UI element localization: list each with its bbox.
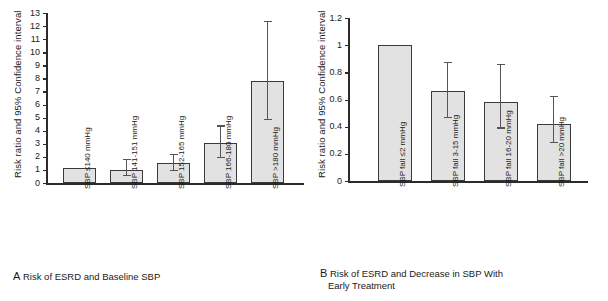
y-axis-tick xyxy=(43,26,47,27)
y-axis-tick-label: 2 xyxy=(16,152,40,161)
y-axis-tick xyxy=(43,118,47,119)
error-bar-line xyxy=(267,21,268,119)
x-axis-category-label: SBP >180 mmHg xyxy=(271,127,280,189)
y-axis-tick xyxy=(43,39,47,40)
y-axis-tick-label: 9 xyxy=(16,61,40,70)
panel-caption-line: Risk of ESRD and Decrease in SBP With xyxy=(327,268,503,279)
x-axis-category-label: SBP fall 3-15 mmHg xyxy=(451,115,460,187)
y-axis-tick xyxy=(345,100,349,101)
error-bar-line xyxy=(173,154,174,170)
panel-caption-line: Early Treatment xyxy=(320,280,395,291)
x-axis-category-label: SBP ≤140 mmHg xyxy=(83,127,92,189)
y-axis-tick xyxy=(345,154,349,155)
y-axis-tick xyxy=(43,78,47,79)
x-axis-category-label: SBP fall ≤2 mmHg xyxy=(398,122,407,187)
panel-a-caption: A Risk of ESRD and Baseline SBP xyxy=(13,270,160,283)
error-bar-line xyxy=(447,62,448,117)
x-axis-category-label: SBP fall 16-20 mmHg xyxy=(504,110,513,187)
y-axis-tick-label: 0.4 xyxy=(318,122,342,131)
y-axis-tick-label: 0 xyxy=(16,179,40,188)
x-axis-category-label: SBP 141-151 mmHg xyxy=(130,116,139,189)
error-bar-cap xyxy=(497,64,505,65)
x-axis-category-label: SBP fall >20 mmHg xyxy=(557,117,566,187)
y-axis-tick xyxy=(345,127,349,128)
x-axis-category-label: SBP 152-165 mmHg xyxy=(177,116,186,189)
error-bar-line xyxy=(126,159,127,175)
error-bar-line xyxy=(500,64,501,128)
y-axis-tick-label: 8 xyxy=(16,74,40,83)
panel-b: Risk ratio and 95% Confidence interval 0… xyxy=(304,0,608,301)
y-axis-tick-label: 6 xyxy=(16,100,40,109)
error-bar-cap xyxy=(444,62,452,63)
y-axis-tick xyxy=(43,170,47,171)
y-axis-tick xyxy=(345,45,349,46)
y-axis-tick-label: 12 xyxy=(16,22,40,31)
panel-b-caption: B Risk of ESRD and Decrease in SBP With … xyxy=(320,267,503,292)
y-axis-tick-label: 1 xyxy=(16,165,40,174)
y-axis-tick xyxy=(43,52,47,53)
error-bar-cap xyxy=(264,119,272,120)
y-axis-tick xyxy=(43,131,47,132)
y-axis-tick xyxy=(43,183,47,184)
panel-b-plot-area: 00.20.40.60.811.2SBP fall ≤2 mmHgSBP fal… xyxy=(304,0,608,301)
y-axis-tick xyxy=(43,65,47,66)
y-axis-tick-label: 0.6 xyxy=(318,95,342,104)
y-axis-tick-label: 1 xyxy=(318,41,342,50)
y-axis-tick-label: 11 xyxy=(16,35,40,44)
y-axis-tick xyxy=(43,105,47,106)
y-axis-tick xyxy=(345,72,349,73)
y-axis-tick-label: 5 xyxy=(16,113,40,122)
panel-caption-line: Risk of ESRD and Baseline SBP xyxy=(20,271,160,282)
figure-container: Risk ratio and 95% Confidence interval 0… xyxy=(0,0,608,301)
y-axis-tick-label: 0.8 xyxy=(318,68,342,77)
y-axis-tick-label: 7 xyxy=(16,87,40,96)
error-bar-cap xyxy=(264,21,272,22)
y-axis-tick xyxy=(43,157,47,158)
y-axis-tick xyxy=(43,144,47,145)
y-axis-tick xyxy=(345,181,349,182)
y-axis-tick-label: 1.2 xyxy=(318,14,342,23)
error-bar-line xyxy=(220,125,221,156)
panel-a: Risk ratio and 95% Confidence interval 0… xyxy=(0,0,304,301)
y-axis-tick-label: 4 xyxy=(16,126,40,135)
x-axis-line xyxy=(348,181,588,183)
x-axis-category-label: SBP 166-180 mmHg xyxy=(224,116,233,189)
y-axis-tick-label: 0.2 xyxy=(318,149,342,158)
y-axis-tick-label: 0 xyxy=(318,177,342,186)
y-axis-tick-label: 10 xyxy=(16,48,40,57)
y-axis-tick xyxy=(43,91,47,92)
panel-a-plot-area: 012345678910111213SBP ≤140 mmHgSBP 141-1… xyxy=(0,0,304,301)
y-axis-tick-label: 13 xyxy=(16,9,40,18)
y-axis-tick-label: 3 xyxy=(16,139,40,148)
error-bar-cap xyxy=(550,96,558,97)
y-axis-tick xyxy=(43,13,47,14)
y-axis-tick xyxy=(345,18,349,19)
error-bar-line xyxy=(553,96,554,142)
